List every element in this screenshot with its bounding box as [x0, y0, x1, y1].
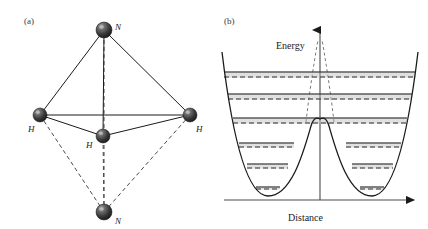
- y-axis-label: Energy: [276, 40, 305, 51]
- solid-bond: [40, 115, 103, 136]
- atom-highlight-h-front: [99, 132, 103, 135]
- atom-label-h-front: H: [86, 140, 93, 150]
- atom-label-n-bottom: N: [115, 216, 121, 226]
- solid-bond: [104, 30, 190, 115]
- atom-highlight-h-right: [186, 111, 190, 114]
- panel-b-double-well-potential: (b) Energy Dista: [214, 0, 428, 229]
- x-axis-label: Distance: [288, 212, 323, 223]
- solid-bond-group: [40, 30, 190, 136]
- ammonia-geometry-svg: [0, 0, 214, 229]
- dashed-bond: [104, 115, 190, 212]
- double-well-svg: [214, 0, 428, 229]
- solid-bond: [103, 115, 190, 136]
- atom-sphere-n-bottom: [96, 204, 112, 220]
- dashed-bond-group: [40, 30, 190, 212]
- atom-label-h-left: H: [28, 124, 35, 134]
- atom-highlight-n-top: [99, 25, 104, 29]
- dashed-bond: [40, 115, 104, 212]
- atom-sphere-n-top: [96, 22, 112, 38]
- atom-highlight-n-bottom: [99, 207, 104, 211]
- atom-sphere-h-left: [33, 108, 47, 122]
- atom-label-h-right: H: [196, 124, 203, 134]
- solid-bond: [40, 30, 104, 115]
- figure-container: (a) NHHHN (b): [0, 0, 428, 229]
- atom-highlight-h-left: [36, 111, 40, 114]
- atom-sphere-h-front: [96, 129, 110, 143]
- atom-sphere-h-right: [183, 108, 197, 122]
- atom-label-n-top: N: [115, 22, 121, 32]
- panel-a-ammonia-geometry: (a) NHHHN: [0, 0, 214, 229]
